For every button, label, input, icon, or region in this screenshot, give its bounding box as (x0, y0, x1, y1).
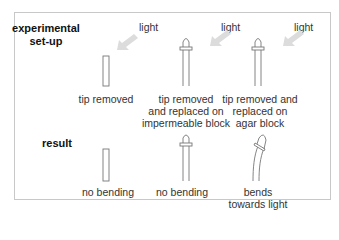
stem-impermeable-block-icon (180, 39, 192, 87)
result-label-col3-line1: bends (229, 186, 288, 198)
setup-label-col2: tip removed and replaced on impermeable … (142, 93, 230, 129)
result-label-col2-line1: no bending (156, 186, 208, 198)
result-label-col3-line2: towards light (229, 198, 288, 210)
setup-label-col1: tip removed (79, 93, 134, 105)
result-label-col3: bends towards light (229, 186, 288, 210)
result-stem-no-bending-icon (103, 149, 109, 181)
setup-label-col3-line2: replaced on (222, 105, 297, 117)
result-label-col1: no bending (82, 186, 134, 198)
stem-agar-block-icon (252, 39, 264, 87)
setup-label-col1-line1: tip removed (79, 93, 134, 105)
result-label-col2: no bending (156, 186, 208, 198)
stem-tip-removed-icon (103, 56, 109, 86)
light-arrow-icon (283, 30, 304, 46)
result-stem-bends-toward-light-icon (253, 135, 266, 181)
setup-label-col3-line1: tip removed and (222, 93, 297, 105)
light-arrow-icon (210, 30, 231, 46)
setup-label-col3: tip removed and replaced on agar block (222, 93, 297, 129)
setup-label-col3-line3: agar block (222, 117, 297, 129)
light-arrow-icon (117, 34, 138, 50)
result-label-col1-line1: no bending (82, 186, 134, 198)
setup-label-col2-line2: and replaced on (142, 105, 230, 117)
setup-label-col2-line3: impermeable block (142, 117, 230, 129)
result-stem-no-bending-capped-icon (180, 135, 192, 181)
setup-label-col2-line1: tip removed (142, 93, 230, 105)
